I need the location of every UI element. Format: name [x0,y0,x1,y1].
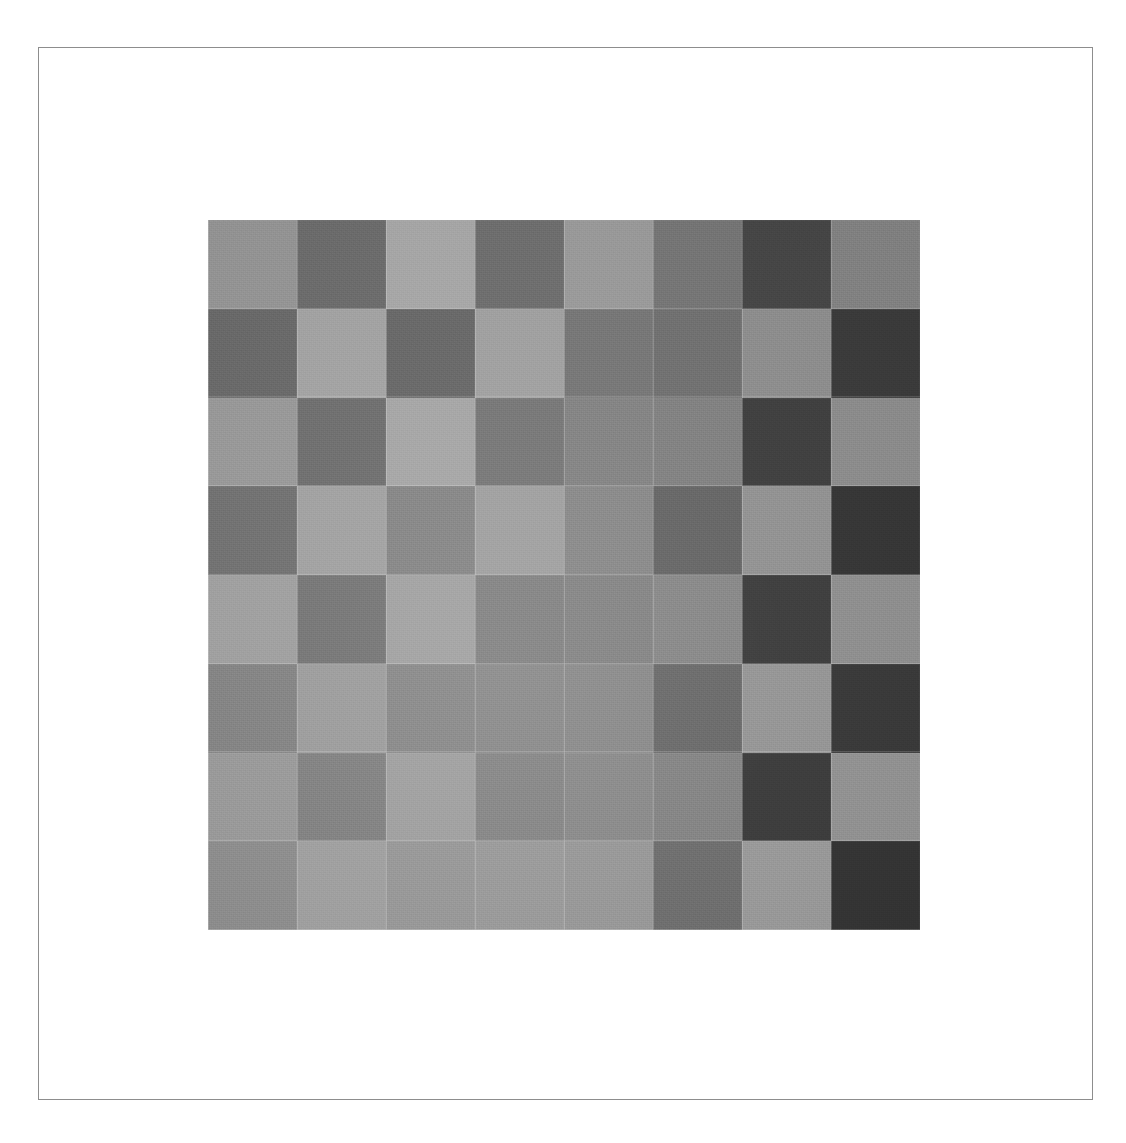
checker-cell [386,309,475,398]
checker-cell [386,753,475,842]
checker-cell [297,753,386,842]
checker-cell [475,398,564,487]
checker-cell [831,664,920,753]
checker-cell [475,841,564,930]
checkerboard-grid [208,220,920,930]
checker-cell [386,486,475,575]
checker-cell [742,753,831,842]
checker-cell [564,575,653,664]
checker-cell [653,486,742,575]
checker-cell [297,664,386,753]
checker-cell [742,486,831,575]
checker-cell [208,486,297,575]
checker-cell [831,398,920,487]
checker-cell [831,486,920,575]
checker-cell [564,753,653,842]
checker-cell [653,575,742,664]
checker-cell [297,220,386,309]
checker-cell [297,398,386,487]
checker-cell [208,398,297,487]
checkerboard-target [208,220,920,930]
checker-cell [475,486,564,575]
checker-cell [653,309,742,398]
checker-cell [208,841,297,930]
checker-cell [208,575,297,664]
checker-cell [208,664,297,753]
checker-cell [742,664,831,753]
checker-cell [564,398,653,487]
checker-cell [297,841,386,930]
checker-cell [564,220,653,309]
checker-cell [475,664,564,753]
checker-cell [653,664,742,753]
checker-cell [564,664,653,753]
checker-cell [831,575,920,664]
checker-cell [297,486,386,575]
page-canvas [0,0,1126,1143]
checker-cell [208,220,297,309]
checker-cell [297,309,386,398]
checker-cell [653,841,742,930]
checker-cell [208,753,297,842]
checker-cell [653,753,742,842]
checker-cell [386,664,475,753]
checker-cell [831,309,920,398]
checker-cell [564,841,653,930]
checker-cell [564,309,653,398]
checker-cell [831,753,920,842]
checker-cell [742,309,831,398]
checker-cell [386,220,475,309]
checker-cell [475,575,564,664]
checker-cell [386,575,475,664]
checker-cell [386,841,475,930]
checker-cell [297,575,386,664]
checker-cell [564,486,653,575]
checker-cell [386,398,475,487]
checker-cell [475,753,564,842]
checker-cell [831,220,920,309]
checker-cell [653,398,742,487]
checker-cell [208,309,297,398]
checker-cell [653,220,742,309]
checker-cell [742,398,831,487]
checker-cell [831,841,920,930]
checker-cell [475,309,564,398]
checker-cell [742,575,831,664]
checker-cell [475,220,564,309]
checker-cell [742,841,831,930]
checker-cell [742,220,831,309]
